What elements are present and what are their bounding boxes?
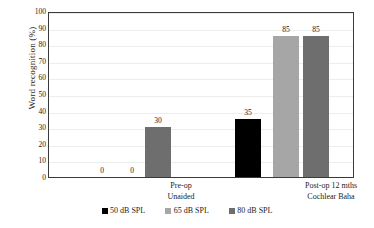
bar-value-label: 35 <box>235 109 261 117</box>
y-tick-label: 10 <box>24 157 46 165</box>
category-label-line: Unaided <box>136 192 226 203</box>
category-label-line: Pre-op <box>136 181 226 192</box>
chart-legend: 50 dB SPL65 dB SPL80 dB SPL <box>0 206 374 215</box>
gridline <box>49 13 353 14</box>
y-tick-label: 60 <box>24 74 46 82</box>
bar-value-label: 0 <box>119 167 145 175</box>
y-tick-label: 30 <box>24 124 46 132</box>
y-axis-tick-labels: 1009080706050403020100 <box>24 12 46 178</box>
legend-item: 80 dB SPL <box>229 206 273 215</box>
y-tick-label: 90 <box>24 25 46 33</box>
legend-item: 65 dB SPL <box>165 206 209 215</box>
y-tick-label: 20 <box>24 141 46 149</box>
legend-label: 50 dB SPL <box>110 206 145 215</box>
legend-label: 80 dB SPL <box>237 206 272 215</box>
category-label-line: Cochlear Baha <box>276 192 374 203</box>
plot-area: 0030358585 <box>48 12 354 178</box>
legend-swatch-icon <box>165 208 171 214</box>
y-tick-label: 50 <box>24 91 46 99</box>
bar-value-label: 0 <box>89 167 115 175</box>
bar <box>273 36 299 177</box>
bar-chart: Word recognition (%) 1009080706050403020… <box>0 0 374 228</box>
bar <box>235 119 261 177</box>
bar-value-label: 85 <box>273 26 299 34</box>
category-label-line: Post-op 12 mths <box>276 181 374 192</box>
bar <box>145 127 171 177</box>
bar <box>303 36 329 177</box>
x-axis-category-label: Pre-opUnaided <box>136 181 226 202</box>
y-tick-label: 80 <box>24 41 46 49</box>
x-axis-category-label: Post-op 12 mthsCochlear Baha <box>276 181 374 202</box>
y-tick-label: 100 <box>24 8 46 16</box>
bar-value-label: 85 <box>303 26 329 34</box>
bar-value-label: 30 <box>145 117 171 125</box>
y-tick-label: 0 <box>24 174 46 182</box>
legend-label: 65 dB SPL <box>174 206 209 215</box>
legend-swatch-icon <box>229 208 235 214</box>
legend-swatch-icon <box>102 208 108 214</box>
y-tick-label: 40 <box>24 108 46 116</box>
legend-item: 50 dB SPL <box>102 206 146 215</box>
y-tick-label: 70 <box>24 58 46 66</box>
